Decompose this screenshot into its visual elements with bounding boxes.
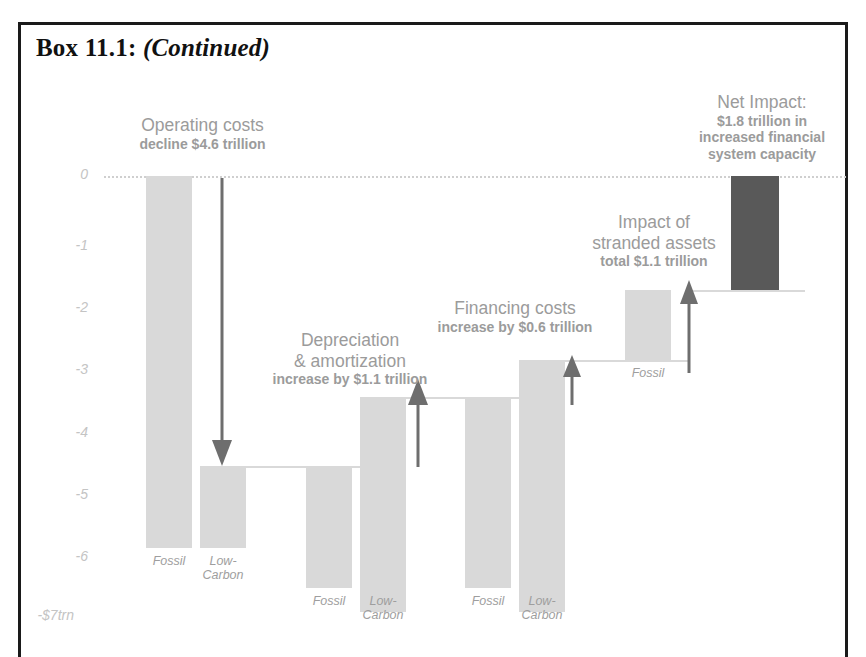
annotation-depreciation-head1: Depreciation: [252, 330, 448, 351]
y-tick-m2: -2: [28, 299, 88, 315]
cat-label-financing-low-carbon: Low- Carbon: [497, 594, 587, 622]
annotation-stranded-assets: Impact of stranded assets total $1.1 tri…: [570, 212, 738, 270]
y-tick-m3: -3: [28, 361, 88, 377]
arrow-operating-down: [208, 178, 240, 468]
annotation-operating-head: Operating costs: [110, 115, 295, 136]
annotation-operating-sub: decline $4.6 trillion: [110, 136, 295, 153]
bar-operating-fossil: [146, 176, 192, 548]
annotation-stranded-head2: stranded assets: [570, 233, 738, 254]
y-tick-m1: -1: [28, 237, 88, 253]
cat-label-low-line2: Carbon: [203, 568, 244, 582]
annotation-financing-head: Financing costs: [420, 298, 610, 319]
annotation-financing-sub: increase by $0.6 trillion: [420, 319, 610, 336]
annotation-stranded-head1: Impact of: [570, 212, 738, 233]
annotation-operating-costs: Operating costs decline $4.6 trillion: [110, 115, 295, 152]
annotation-financing: Financing costs increase by $0.6 trillio…: [420, 298, 610, 335]
cat-label-low-line2: Carbon: [363, 608, 404, 622]
cat-label-low-line2: Carbon: [522, 608, 563, 622]
arrow-financing-up: [558, 355, 590, 407]
connector-stranded-to-net: [690, 290, 805, 292]
annotation-depreciation-head2: & amortization: [252, 351, 448, 372]
arrow-depreciation-up: [404, 379, 436, 469]
annotation-net-impact: Net Impact: $1.8 trillion in increased f…: [672, 92, 852, 162]
waterfall-chart: 0 -1 -2 -3 -4 -5 -6 -$7trn: [0, 0, 866, 657]
y-tick-m4: -4: [28, 424, 88, 440]
cat-label-stranded-fossil: Fossil: [603, 366, 693, 380]
y-tick-m6: -6: [28, 548, 88, 564]
cat-label-low-line1: Low-: [209, 554, 236, 568]
page-root: Box 11.1: (Continued) 0 -1 -2 -3 -4 -5 -…: [0, 0, 866, 657]
annotation-net-sub3: system capacity: [672, 146, 852, 163]
bar-depreciation-fossil: [306, 466, 352, 588]
cat-label-operating-low-carbon: Low- Carbon: [178, 554, 268, 582]
y-tick-m5: -5: [28, 486, 88, 502]
arrow-stranded-up: [675, 280, 707, 375]
y-tick-0: 0: [28, 166, 88, 182]
annotation-stranded-sub: total $1.1 trillion: [570, 253, 738, 270]
bar-net-impact: [731, 176, 779, 290]
bar-operating-low-carbon: [200, 466, 246, 548]
annotation-depreciation-sub: increase by $1.1 trillion: [252, 371, 448, 388]
annotation-net-sub2: increased financial: [672, 129, 852, 146]
annotation-net-head: Net Impact:: [672, 92, 852, 113]
bar-financing-fossil: [465, 397, 511, 588]
annotation-net-sub1: $1.8 trillion in: [672, 113, 852, 130]
cat-label-low-line1: Low-: [369, 594, 396, 608]
annotation-depreciation: Depreciation & amortization increase by …: [252, 330, 448, 388]
bar-stranded-fossil: [625, 290, 671, 360]
cat-label-depreciation-low-carbon: Low- Carbon: [338, 594, 428, 622]
y-tick-m7trn: -$7trn: [14, 607, 74, 623]
cat-label-low-line1: Low-: [528, 594, 555, 608]
bar-depreciation-low-carbon: [360, 397, 406, 612]
